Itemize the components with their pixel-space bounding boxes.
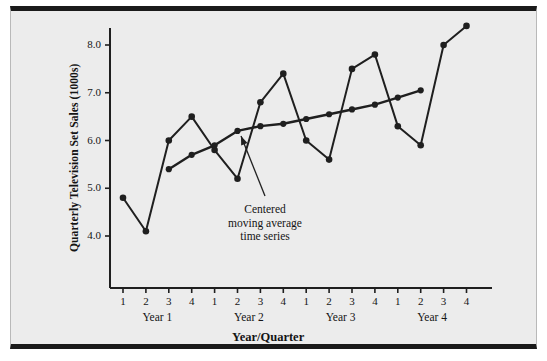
data-point <box>303 116 309 122</box>
data-point <box>463 23 470 30</box>
x-tick-label: 4 <box>274 295 292 307</box>
year-group-label: Year 3 <box>306 311 376 323</box>
data-point <box>234 175 241 182</box>
year-group-label: Year 2 <box>214 311 284 323</box>
x-tick-label: 3 <box>251 295 269 307</box>
x-tick-label: 4 <box>183 295 201 307</box>
data-point <box>417 142 424 149</box>
data-point <box>395 123 402 130</box>
annotation-arrow-head <box>241 136 247 146</box>
series-line-1 <box>169 90 421 169</box>
data-point <box>372 51 379 58</box>
data-point <box>120 195 127 202</box>
x-tick-label: 3 <box>343 295 361 307</box>
x-tick-label: 3 <box>435 295 453 307</box>
x-tick-label: 4 <box>458 295 476 307</box>
x-tick-label: 2 <box>320 295 338 307</box>
data-point <box>234 128 240 134</box>
data-point <box>280 121 286 127</box>
data-point <box>395 94 401 100</box>
data-point <box>440 42 447 49</box>
data-point <box>418 87 424 93</box>
data-point <box>212 142 218 148</box>
x-tick-label: 1 <box>297 295 315 307</box>
x-tick-label: 3 <box>160 295 178 307</box>
data-point <box>303 137 310 144</box>
x-tick-label: 1 <box>389 295 407 307</box>
x-tick-label: 1 <box>206 295 224 307</box>
y-tick-label: 6.0 <box>67 134 101 146</box>
data-point <box>188 113 195 120</box>
data-point <box>280 70 287 77</box>
data-point <box>166 166 172 172</box>
data-point <box>349 66 356 73</box>
x-tick-label: 4 <box>366 295 384 307</box>
year-group-label: Year 4 <box>397 311 467 323</box>
data-point <box>349 106 355 112</box>
data-point <box>326 156 333 163</box>
x-tick-label: 2 <box>137 295 155 307</box>
x-tick-label: 2 <box>412 295 430 307</box>
data-point <box>143 228 150 235</box>
data-point <box>166 137 173 144</box>
series-line-0 <box>123 26 467 231</box>
data-point <box>326 111 332 117</box>
x-tick-label: 2 <box>229 295 247 307</box>
chart-plot-area: Quarterly Television Set Sales (1000s) Y… <box>0 0 547 361</box>
data-point <box>257 99 264 106</box>
data-point <box>189 152 195 158</box>
y-tick-label: 4.0 <box>67 229 101 241</box>
data-point <box>257 123 263 129</box>
y-tick-label: 8.0 <box>67 38 101 50</box>
annotation-arrow-line <box>241 136 265 196</box>
data-point <box>372 102 378 108</box>
year-group-label: Year 1 <box>122 311 192 323</box>
y-tick-label: 7.0 <box>67 86 101 98</box>
x-tick-label: 1 <box>114 295 132 307</box>
y-tick-label: 5.0 <box>67 181 101 193</box>
